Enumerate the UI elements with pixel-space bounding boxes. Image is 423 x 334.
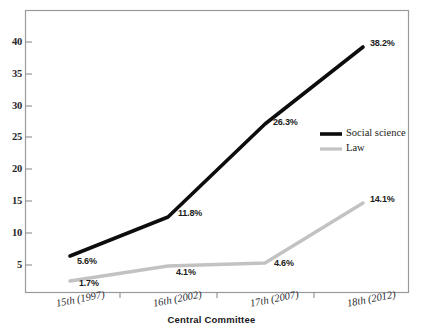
y-tick-label-35: 35 bbox=[0, 68, 22, 79]
y-tick-label-40: 40 bbox=[0, 36, 22, 47]
y-tick-label-25: 25 bbox=[0, 131, 22, 142]
legend-label-social-science: Social science bbox=[346, 127, 406, 138]
x-axis-title: Central Committee bbox=[0, 314, 423, 325]
y-tick-label-30: 30 bbox=[0, 100, 22, 111]
data-label-social-18th: 38.2% bbox=[370, 38, 395, 48]
data-label-law-17th: 4.6% bbox=[274, 258, 294, 268]
data-label-law-16th: 4.1% bbox=[176, 267, 196, 277]
chart-figure: 40 35 30 25 20 15 10 5 15th (1997) 16th … bbox=[0, 0, 423, 334]
data-label-law-15th: 1.7% bbox=[79, 278, 99, 288]
y-tick-label-5: 5 bbox=[0, 259, 22, 270]
legend-label-law: Law bbox=[346, 142, 365, 153]
data-label-social-15th: 5.6% bbox=[77, 256, 97, 266]
y-tick-label-15: 15 bbox=[0, 195, 22, 206]
line-chart-canvas bbox=[0, 0, 423, 334]
y-tick-label-10: 10 bbox=[0, 227, 22, 238]
data-label-law-18th: 14.1% bbox=[370, 194, 395, 204]
data-label-social-17th: 26.3% bbox=[273, 117, 298, 127]
y-tick-label-20: 20 bbox=[0, 163, 22, 174]
data-label-social-16th: 11.8% bbox=[178, 208, 202, 218]
